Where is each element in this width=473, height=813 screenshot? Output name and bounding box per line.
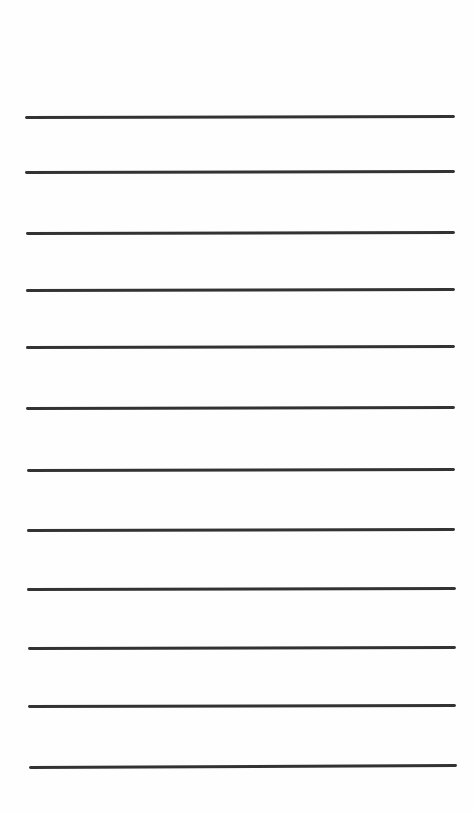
- ruled-line: [28, 646, 456, 650]
- ruled-line: [27, 468, 455, 472]
- lined-paper-sheet: [0, 0, 473, 813]
- ruled-line: [29, 764, 457, 769]
- ruled-line: [26, 288, 455, 292]
- ruled-line: [28, 704, 456, 708]
- ruled-line: [25, 170, 455, 174]
- ruled-line: [27, 528, 455, 532]
- ruled-line: [27, 587, 456, 591]
- ruled-line: [25, 115, 455, 119]
- ruled-line: [26, 406, 455, 410]
- ruled-line: [26, 345, 455, 349]
- ruled-line: [26, 231, 455, 235]
